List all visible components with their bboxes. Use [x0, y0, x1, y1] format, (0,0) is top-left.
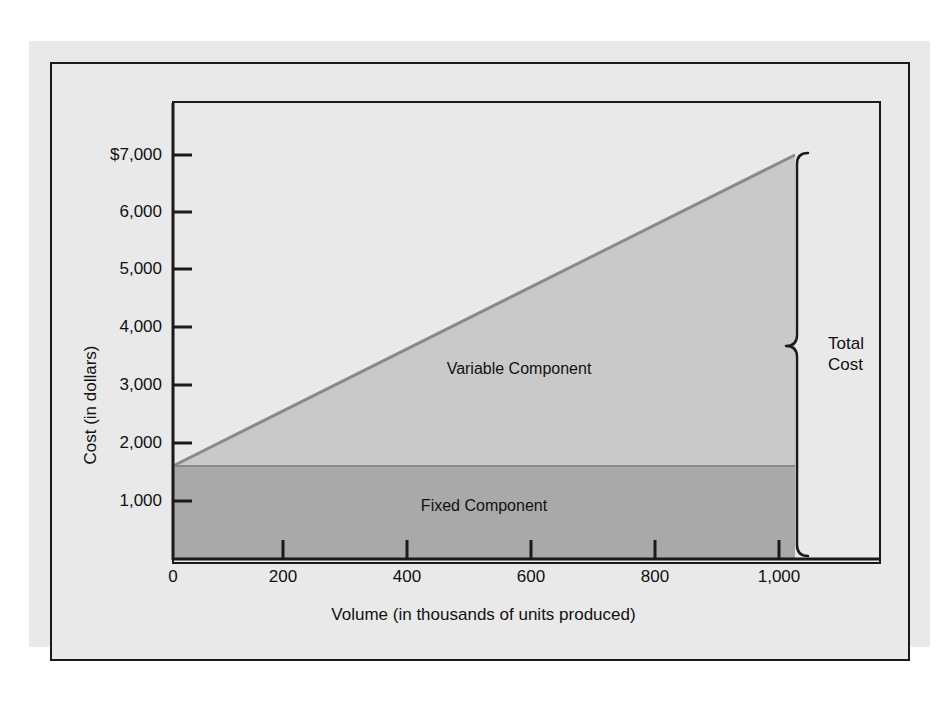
variable-component-label: Variable Component — [447, 360, 592, 378]
x-axis-title: Volume (in thousands of units produced) — [172, 605, 795, 625]
total-cost-label-line1: Total — [828, 333, 864, 354]
y-tick-label-2000: 2,000 — [52, 433, 162, 453]
fixed-component-label: Fixed Component — [421, 497, 547, 515]
y-tick-label-1000: 1,000 — [52, 491, 162, 511]
y-tick-label-7000: $7,000 — [52, 145, 162, 165]
plot-frame-border — [172, 101, 881, 564]
y-tick-label-6000: 6,000 — [52, 202, 162, 222]
x-tick-label-600: 600 — [486, 567, 576, 587]
x-tick-label-200: 200 — [238, 567, 328, 587]
figure-page: Cost (in dollars) Volume (in thousands o… — [0, 0, 949, 708]
x-tick-label-800: 800 — [610, 567, 700, 587]
y-tick-label-5000: 5,000 — [52, 259, 162, 279]
x-tick-label-1000: 1,000 — [734, 567, 824, 587]
y-tick-label-3000: 3,000 — [52, 375, 162, 395]
total-cost-label: Total Cost — [828, 333, 864, 375]
x-tick-label-0: 0 — [128, 567, 218, 587]
y-tick-label-4000: 4,000 — [52, 317, 162, 337]
x-tick-label-400: 400 — [362, 567, 452, 587]
total-cost-label-line2: Cost — [828, 354, 864, 375]
